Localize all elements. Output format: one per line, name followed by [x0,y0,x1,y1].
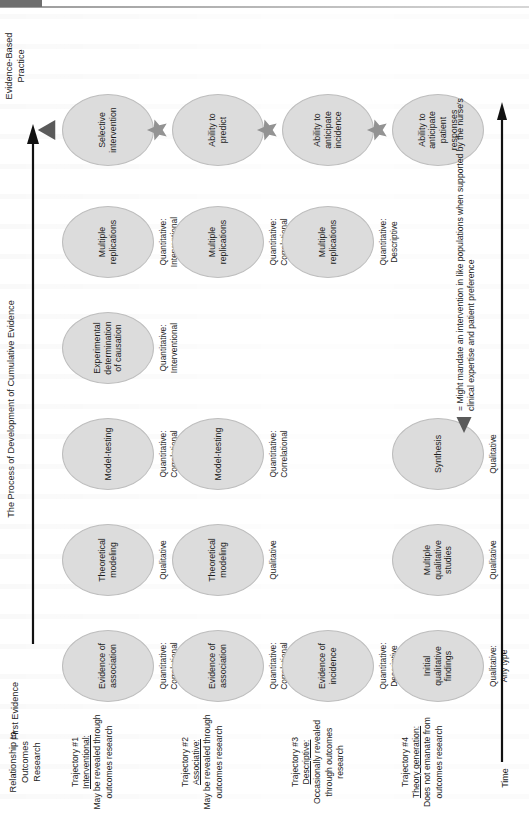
node-label: Theoretical modeling [97,525,118,595]
node-label: Ability to predict [207,95,228,165]
time-arrow-icon [497,102,507,762]
node-trajectory-3-col5[interactable]: Ability to anticipate incidence [282,94,374,166]
node-sublabel-trajectory-2-col1: Qualitative [268,517,279,603]
node-label: Ability to anticipate incidence [312,95,344,165]
row-descriptor-trajectory-4: Trajectory #4Theory generation:Does not … [400,712,445,812]
legend-text: = Might mandate an intervention in like … [455,81,477,411]
node-label: Evidence of incidence [317,631,338,701]
node-label: Multiple replications [97,207,118,277]
node-sublabel-trajectory-1-col3: Quantitative:Interventional [158,305,179,391]
trajectory-name: Trajectory #2 [180,712,191,812]
evidence-based-practice-header: Evidence-BasedPractice [4,18,27,114]
rotated-figure-wrapper: First Evidence Evidence-BasedPractice Re… [0,0,529,814]
node-trajectory-3-col4[interactable]: Multiple replications [282,206,374,278]
row-descriptor-trajectory-2: Trajectory #2Associative:May be revealed… [180,712,225,812]
triangle-marker-icon [36,119,58,141]
legend-triangle-icon [456,416,472,434]
trajectory-name: Trajectory #1 [70,712,81,812]
trajectory-kind: Interventional: [81,712,92,812]
node-label: Selective intervention [97,95,118,165]
trajectory-name: Trajectory #4 [400,712,411,812]
node-trajectory-4-col1[interactable]: Multiple qualitative studies [392,524,484,596]
node-trajectory-1-col0[interactable]: Evidence of association [62,630,154,702]
node-trajectory-2-col5[interactable]: Ability to predict [172,94,264,166]
legend: = Might mandate an intervention in like … [455,81,477,434]
page-top-rule [0,6,529,8]
row-descriptor-header: Relationship toOutcomesResearch [8,712,44,812]
node-label: Ability to anticipate patient responses [417,95,460,165]
trajectory-note: Does not emanate from outcomes research [422,712,444,812]
star-marker-icon [146,119,168,141]
node-trajectory-2-col1[interactable]: Theoretical modeling [172,524,264,596]
node-label: Synthesis [433,430,444,478]
node-trajectory-1-col2[interactable]: Model-testing [62,418,154,490]
node-label: Multiple replications [317,207,338,277]
node-sublabel-trajectory-2-col2: Quantitative:Correlational [268,411,289,497]
process-arrow-icon [27,124,39,644]
node-label: Model-testing [103,423,114,486]
process-axis-label: The Process of Development of Cumulative… [6,209,16,609]
figure-canvas: First Evidence Evidence-BasedPractice Re… [0,0,529,814]
trajectory-note: Occasionally revealed through outcomes r… [312,712,346,812]
node-trajectory-1-col4[interactable]: Multiple replications [62,206,154,278]
trajectory-note: May be revealed through outcomes researc… [202,712,224,812]
node-label: Evidence of association [97,631,118,701]
trajectory-name: Trajectory #3 [290,712,301,812]
row-descriptor-trajectory-1: Trajectory #1Interventional:May be revea… [70,712,115,812]
row-descriptor-trajectory-3: Trajectory #3Descriptive:Occasionally re… [290,712,346,812]
page-edge-artifact [0,0,42,7]
node-label: Model-testing [213,423,224,486]
node-label: Multiple qualitative studies [422,525,454,595]
node-trajectory-2-col4[interactable]: Multiple replications [172,206,264,278]
trajectory-kind: Descriptive: [301,712,312,812]
node-trajectory-3-col0[interactable]: Evidence of incidence [282,630,374,702]
star-marker-icon [256,119,278,141]
node-label: Experimental determination of causation [92,313,124,383]
trajectory-kind: Associative: [191,712,202,812]
node-trajectory-1-col1[interactable]: Theoretical modeling [62,524,154,596]
trajectory-kind: Theory generation: [411,712,422,812]
node-label: Evidence of association [207,631,228,701]
node-trajectory-2-col0[interactable]: Evidence of association [172,630,264,702]
node-trajectory-1-col3[interactable]: Experimental determination of causation [62,312,154,384]
node-sublabel-trajectory-1-col1: Qualitative [158,517,169,603]
node-trajectory-1-col5[interactable]: Selective intervention [62,94,154,166]
node-label: Theoretical modeling [207,525,228,595]
trajectory-note: May be revealed through outcomes researc… [92,712,114,812]
node-label: Multiple replications [207,207,228,277]
node-trajectory-2-col2[interactable]: Model-testing [172,418,264,490]
node-trajectory-4-col0[interactable]: Initial qualitative findings [392,630,484,702]
star-marker-icon [366,119,388,141]
node-sublabel-trajectory-3-col4: Quantitative:Descriptive [378,199,399,285]
node-label: Initial qualitative findings [422,631,454,701]
